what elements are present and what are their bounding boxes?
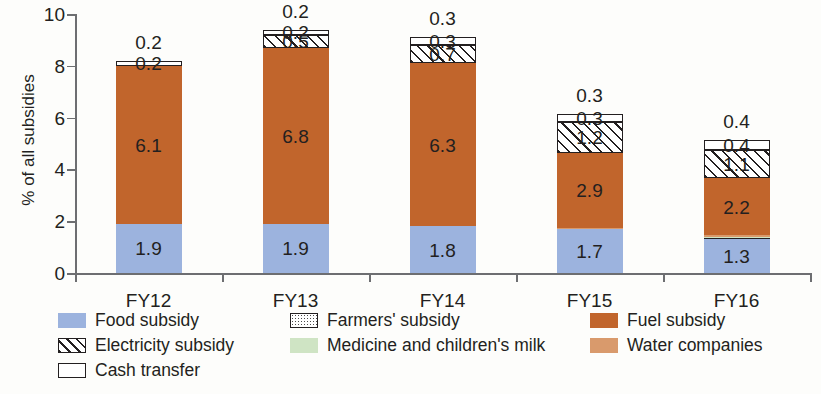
legend-item[interactable]: Farmers' subsidy	[290, 310, 590, 331]
y-tick-label: 2	[54, 212, 65, 231]
bar-segment-value-label: 6.3	[410, 135, 476, 154]
legend-swatch-icon	[58, 363, 86, 378]
bar-segment: 6.8	[263, 48, 329, 224]
bar-total-label: 0.3	[388, 8, 498, 30]
x-tick-mark	[369, 273, 371, 282]
bar-stack[interactable]: 1.96.10.20.2	[116, 61, 182, 273]
bar-segment-value-label: 1.9	[116, 239, 182, 258]
legend-item[interactable]: Electricity subsidy	[58, 335, 290, 356]
bar-segment: 1.3	[704, 239, 770, 273]
bar-segment	[704, 235, 770, 236]
x-tick-mark	[75, 273, 77, 282]
legend-swatch-icon	[590, 338, 618, 353]
bar-stack[interactable]: 1.32.21.10.40.4	[704, 140, 770, 273]
bar-segment-value-label: 2.9	[557, 181, 623, 200]
bar-segment: 0.2	[116, 61, 182, 66]
legend-item-label: Electricity subsidy	[95, 335, 234, 356]
legend-swatch-icon	[290, 313, 318, 328]
y-tick-label: 8	[54, 56, 65, 75]
bar-total-label: 0.4	[682, 111, 792, 133]
y-tick-mark	[67, 169, 75, 171]
bar-segment: 0.5	[263, 35, 329, 48]
legend-item-label: Water companies	[627, 335, 763, 356]
chart-legend: Food subsidyFarmers' subsidyFuel subsidy…	[58, 308, 818, 383]
bar-segment-value-label: 2.2	[704, 197, 770, 216]
y-tick-mark	[67, 14, 75, 16]
y-axis-title: % of all subsidies	[19, 25, 39, 255]
bar-segment: 6.1	[116, 66, 182, 224]
legend-swatch-icon	[58, 338, 86, 353]
legend-item-label: Cash transfer	[95, 360, 200, 381]
bar-segment: 2.9	[557, 153, 623, 228]
bar-total-label: 0.3	[535, 85, 645, 107]
bar-stack[interactable]: 1.86.30.70.30.3	[410, 37, 476, 273]
y-tick-mark	[67, 66, 75, 68]
y-tick-mark	[67, 118, 75, 120]
bar-segment-value-label: 1.8	[410, 240, 476, 259]
bar-segment: 6.3	[410, 63, 476, 226]
bar-stack[interactable]: 1.96.80.50.20.2	[263, 30, 329, 273]
y-tick-mark	[67, 273, 75, 275]
bar-segment-value-label: 1.1	[705, 155, 769, 174]
y-tick-label: 4	[54, 160, 65, 179]
bar-segment: 1.2	[557, 122, 623, 153]
legend-item[interactable]: Cash transfer	[58, 360, 290, 381]
bar-segment: 1.7	[557, 229, 623, 273]
bar-segment-value-label: 6.1	[116, 135, 182, 154]
x-axis-line	[75, 273, 810, 275]
bar-segment-value-label: 0.7	[411, 45, 475, 64]
bar-segment	[557, 228, 623, 229]
bar-segment: 0.3	[557, 114, 623, 122]
bar-segment: 1.9	[263, 224, 329, 273]
legend-item-label: Fuel subsidy	[627, 310, 725, 331]
bar-segment: 1.9	[116, 224, 182, 273]
legend-item[interactable]: Fuel subsidy	[590, 310, 820, 331]
chart-figure: % of all subsidies 0246810 FY12FY13FY14F…	[0, 0, 821, 394]
x-tick-mark	[516, 273, 518, 282]
bar-segment: 2.2	[704, 178, 770, 235]
y-tick-mark	[67, 221, 75, 223]
bar-stack[interactable]: 1.72.91.20.30.3	[557, 114, 623, 273]
x-tick-mark	[663, 273, 665, 282]
legend-item[interactable]: Water companies	[590, 335, 820, 356]
y-tick-label: 0	[54, 264, 65, 283]
bar-segment: 1.8	[410, 226, 476, 273]
plot-area: 0246810 FY12FY13FY14FY15FY16 1.96.10.20.…	[75, 14, 810, 273]
bar-total-label: 0.2	[241, 1, 351, 23]
bar-segment-value-label: 1.7	[557, 241, 623, 260]
bar-segment: 0.3	[410, 37, 476, 45]
bar-segment-value-label: 1.9	[263, 239, 329, 258]
y-tick-label: 6	[54, 108, 65, 127]
y-axis-line	[75, 14, 77, 273]
legend-item-label: Medicine and children's milk	[327, 335, 545, 356]
legend-item[interactable]: Food subsidy	[58, 310, 290, 331]
legend-item-label: Food subsidy	[95, 310, 199, 331]
bar-segment-value-label: 6.8	[263, 126, 329, 145]
x-tick-mark	[810, 273, 812, 282]
legend-item[interactable]: Medicine and children's milk	[290, 335, 590, 356]
y-tick-label: 10	[44, 5, 65, 24]
bar-segment: 1.1	[704, 150, 770, 178]
bar-total-label: 0.2	[94, 32, 204, 54]
bar-segment-value-label: 1.3	[704, 247, 770, 266]
bar-segment: 0.4	[704, 140, 770, 150]
legend-swatch-icon	[58, 313, 86, 328]
bar-segment	[704, 237, 770, 238]
legend-swatch-icon	[590, 313, 618, 328]
legend-item-label: Farmers' subsidy	[327, 310, 460, 331]
bar-segment: 0.7	[410, 45, 476, 63]
bar-segment-value-label: 1.2	[558, 128, 622, 147]
legend-swatch-icon	[290, 338, 318, 353]
bar-segment: 0.2	[263, 30, 329, 35]
x-tick-mark	[222, 273, 224, 282]
